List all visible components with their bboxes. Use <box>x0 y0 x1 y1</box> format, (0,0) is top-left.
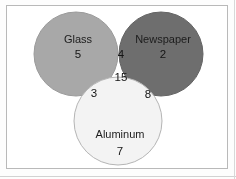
scan-edge-right <box>234 0 235 179</box>
venn-stage: Glass 5 Newspaper 2 Aluminum 7 4 3 8 15 <box>7 6 229 170</box>
scan-edge-bottom <box>0 176 236 177</box>
venn-circles-svg <box>7 6 229 170</box>
venn-diagram-figure: Glass 5 Newspaper 2 Aluminum 7 4 3 8 15 <box>0 0 236 179</box>
venn-circle-aluminum <box>74 77 162 165</box>
diagram-frame: Glass 5 Newspaper 2 Aluminum 7 4 3 8 15 <box>6 5 228 169</box>
